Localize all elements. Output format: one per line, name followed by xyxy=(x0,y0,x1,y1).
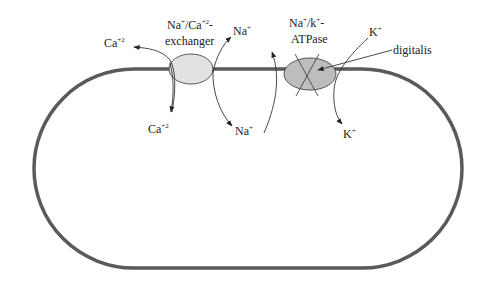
cell-membrane xyxy=(34,69,462,268)
na-exchanger-out-arrow xyxy=(213,37,231,72)
digitalis-label: digitalis xyxy=(393,43,432,57)
exchanger-label-line2: exchanger xyxy=(165,34,214,48)
ca-outside-label: Ca+2 xyxy=(104,36,125,50)
exchanger-label-line1: Na+/Ca+2- xyxy=(167,18,213,32)
ca-inside-label: Ca+2 xyxy=(148,122,169,136)
k-inside-label: K+ xyxy=(343,127,356,141)
na-pump-out-arrow xyxy=(264,52,277,133)
digitalis-pointer xyxy=(318,50,392,70)
k-pump-in-arrow xyxy=(334,38,368,124)
pump-label-line1: Na+/k+- xyxy=(289,16,324,30)
pump-label-line2: ATPase xyxy=(291,32,328,46)
na-outside-label: Na+ xyxy=(233,24,251,38)
ca-efflux-arrow xyxy=(134,47,175,112)
na-exchanger-in-arrow xyxy=(213,70,232,126)
k-outside-label: K+ xyxy=(369,25,382,39)
na-k-atpase-pump xyxy=(284,54,336,96)
na-inside-label: Na+ xyxy=(235,124,253,138)
cell-diagram: Na+/Ca+2- exchanger Na+/k+- ATPase digit… xyxy=(0,0,491,288)
na-ca-exchanger xyxy=(169,54,213,84)
